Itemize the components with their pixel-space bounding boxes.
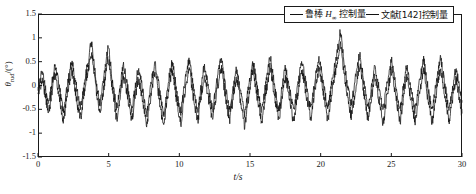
x-tick-label: 30 bbox=[447, 160, 476, 169]
x-tick-label: 20 bbox=[306, 160, 336, 169]
x-tick-label: 5 bbox=[94, 160, 124, 169]
x-axis-title: t/s bbox=[0, 172, 476, 182]
legend-label-robust-prefix: 鲁棒 bbox=[305, 9, 325, 19]
x-tick-label: 10 bbox=[164, 160, 194, 169]
y-axis-title-subscript: rud bbox=[8, 73, 15, 82]
y-axis-title-theta: θ bbox=[3, 82, 13, 86]
y-axis-title: θrud/(°) bbox=[3, 46, 15, 102]
legend-line-swatch-robust bbox=[290, 14, 303, 15]
y-axis-title-unit: /(°) bbox=[3, 61, 13, 73]
x-tick-label: 15 bbox=[235, 160, 265, 169]
legend-line-swatch-reference bbox=[366, 14, 379, 15]
chart-figure: 1.510.50-0.5-1-1.5 051015202530 θrud/(°)… bbox=[0, 0, 476, 194]
legend-label-robust: 鲁棒 H∞ 控制量 bbox=[305, 7, 366, 22]
x-tick-label: 25 bbox=[376, 160, 406, 169]
chart-legend: 鲁棒 H∞ 控制量 文献[142]控制量 bbox=[284, 6, 454, 23]
x-tick-label: 0 bbox=[23, 160, 53, 169]
legend-label-robust-suffix: 控制量 bbox=[337, 9, 366, 19]
x-axis-tick-labels: 051015202530 bbox=[0, 0, 476, 194]
legend-label-reference: 文献[142]控制量 bbox=[381, 8, 448, 21]
legend-entry-reference142: 文献[142]控制量 bbox=[366, 8, 448, 21]
legend-entry-robust-hinf: 鲁棒 H∞ 控制量 bbox=[290, 7, 366, 22]
